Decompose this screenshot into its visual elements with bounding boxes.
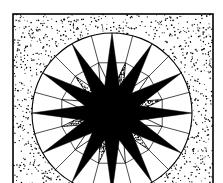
stipple-dot: [69, 24, 71, 26]
stipple-dot: [50, 51, 51, 52]
stipple-dot: [73, 121, 74, 122]
stipple-dot: [41, 173, 42, 174]
stipple-dot: [198, 136, 199, 137]
stipple-dot: [169, 16, 170, 17]
stipple-dot: [72, 123, 73, 124]
stipple-dot: [141, 21, 143, 23]
stipple-dot: [43, 16, 44, 17]
stipple-dot: [204, 147, 205, 148]
stipple-dot: [17, 48, 19, 50]
stipple-dot: [202, 32, 203, 33]
stipple-dot: [170, 20, 171, 21]
stipple-dot: [102, 26, 103, 27]
stipple-dot: [20, 125, 21, 126]
stipple-dot: [191, 53, 192, 54]
stipple-dot: [110, 30, 111, 31]
stipple-dot: [170, 17, 172, 19]
stipple-dot: [31, 33, 33, 35]
stipple-dot: [138, 136, 139, 137]
stipple-dot: [58, 175, 59, 176]
stipple-dot: [15, 88, 16, 89]
stipple-dot: [47, 36, 48, 37]
stipple-dot: [30, 45, 31, 46]
stipple-dot: [198, 132, 200, 134]
stipple-dot: [205, 118, 207, 120]
stipple-dot: [208, 71, 209, 72]
stipple-dot: [43, 23, 44, 24]
stipple-dot: [29, 34, 30, 35]
stipple-dot: [39, 164, 40, 165]
stipple-dot: [28, 97, 29, 98]
stipple-dot: [180, 45, 181, 46]
stipple-dot: [103, 147, 104, 148]
stipple-dot: [36, 72, 37, 73]
stipple-dot: [152, 101, 153, 102]
stipple-dot: [42, 157, 44, 159]
stipple-dot: [15, 56, 17, 58]
stipple-dot: [206, 60, 207, 61]
stipple-dot: [48, 170, 49, 171]
stipple-dot: [170, 49, 172, 51]
stipple-dot: [101, 148, 102, 149]
stipple-dot: [35, 53, 36, 54]
stipple-dot: [125, 65, 126, 66]
stipple-dot: [195, 19, 196, 20]
stipple-dot: [119, 80, 120, 81]
stipple-dot: [22, 121, 23, 122]
stipple-dot: [99, 151, 100, 152]
stipple-dot: [16, 61, 17, 62]
stipple-dot: [211, 125, 212, 126]
stipple-dot: [15, 19, 16, 20]
stipple-dot: [209, 56, 210, 57]
stipple-dot: [201, 15, 203, 17]
stipple-dot: [188, 37, 189, 38]
stipple-dot: [80, 121, 81, 122]
stipple-dot: [172, 53, 173, 54]
stipple-dot: [36, 69, 37, 70]
stipple-dot: [200, 22, 202, 24]
stipple-dot: [167, 28, 169, 30]
stipple-dot: [113, 22, 115, 24]
stipple-dot: [185, 149, 186, 150]
stipple-dot: [16, 66, 18, 68]
stipple-dot: [45, 54, 46, 55]
stipple-dot: [36, 30, 37, 31]
stipple-dot: [191, 59, 192, 60]
stipple-dot: [205, 115, 206, 116]
stipple-dot: [40, 23, 42, 25]
stipple-dot: [19, 167, 20, 168]
stipple-dot: [57, 29, 58, 30]
stipple-dot: [35, 167, 36, 168]
stipple-dot: [58, 43, 59, 44]
stipple-dot: [195, 62, 197, 64]
stipple-dot: [180, 31, 181, 32]
stipple-dot: [33, 54, 34, 55]
stipple-dot: [17, 50, 18, 51]
stipple-dot: [193, 63, 195, 65]
stipple-dot: [188, 45, 190, 47]
star-burst-diagram: [0, 0, 223, 183]
stipple-dot: [190, 52, 191, 53]
stipple-dot: [25, 47, 27, 49]
stipple-dot: [68, 38, 69, 39]
stipple-dot: [203, 27, 205, 29]
stipple-dot: [38, 165, 39, 166]
stipple-dot: [194, 65, 196, 67]
stipple-dot: [188, 86, 190, 88]
stipple-dot: [73, 120, 74, 121]
stipple-dot: [165, 19, 167, 21]
stipple-dot: [205, 150, 206, 151]
stipple-dot: [205, 147, 206, 148]
stipple-dot: [16, 123, 17, 124]
stipple-dot: [22, 127, 23, 128]
stipple-dot: [151, 21, 153, 23]
stipple-dot: [151, 104, 152, 105]
stipple-dot: [14, 65, 16, 67]
stipple-dot: [210, 50, 211, 51]
stipple-dot: [30, 80, 31, 81]
stipple-dot: [196, 165, 197, 166]
stipple-dot: [176, 58, 177, 59]
stipple-dot: [200, 39, 201, 40]
stipple-dot: [121, 75, 122, 76]
stipple-dot: [193, 153, 194, 154]
